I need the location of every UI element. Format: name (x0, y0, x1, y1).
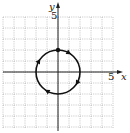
x-axis-label: x (121, 71, 127, 82)
coordinate-plane: x 5 y 5 (0, 0, 130, 133)
y-axis-tick-label: 5 (51, 10, 57, 21)
x-axis-tick-label: 5 (108, 71, 114, 82)
start-point-dot (56, 48, 60, 52)
y-axis-arrow-icon (56, 2, 60, 8)
